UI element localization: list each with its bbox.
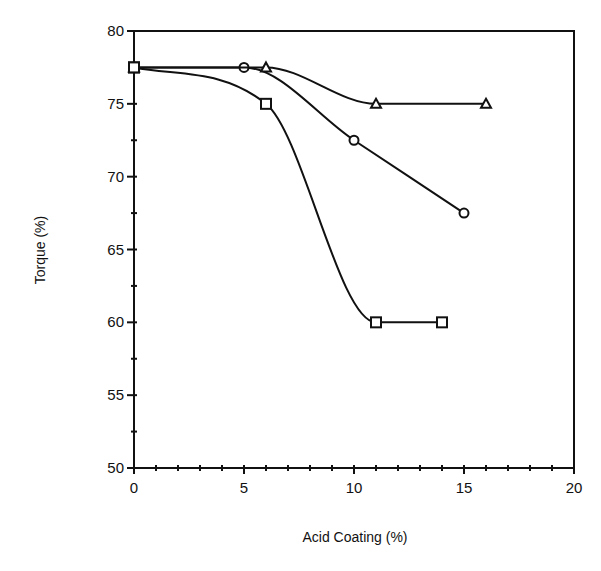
triangle-marker: [261, 62, 271, 71]
y-tick-label: 75: [107, 95, 124, 112]
plot-frame: [134, 31, 574, 468]
circle-marker: [460, 209, 469, 218]
series-line: [134, 67, 442, 322]
x-axis-ticks: 05101520: [130, 465, 583, 496]
y-axis-ticks: 50556065707580: [107, 22, 137, 476]
y-tick-label: 70: [107, 168, 124, 185]
y-tick-label: 55: [107, 386, 124, 403]
y-tick-label: 65: [107, 241, 124, 258]
y-tick-label: 50: [107, 459, 124, 476]
y-tick-label: 60: [107, 313, 124, 330]
square-marker: [437, 317, 447, 327]
square-marker: [261, 99, 271, 109]
x-axis-title: Acid Coating (%): [302, 529, 407, 545]
triangle-marker: [481, 99, 491, 108]
series-square: [129, 62, 447, 327]
x-tick-label: 5: [240, 479, 248, 496]
x-tick-label: 0: [130, 479, 138, 496]
series-triangle: [129, 62, 491, 107]
torque-vs-acid-coating-chart: 05101520 50556065707580 Acid Coating (%)…: [0, 0, 601, 571]
x-tick-label: 15: [456, 479, 473, 496]
circle-marker: [350, 136, 359, 145]
square-marker: [371, 317, 381, 327]
axes: 05101520 50556065707580: [107, 22, 582, 496]
series-line: [134, 67, 464, 213]
x-tick-label: 20: [566, 479, 583, 496]
y-axis-title: Torque (%): [32, 216, 48, 284]
triangle-marker: [371, 99, 381, 108]
data-series: [129, 62, 491, 327]
series-circle: [130, 63, 469, 218]
y-tick-label: 80: [107, 22, 124, 39]
origin-square-marker: [129, 62, 139, 72]
x-tick-label: 10: [346, 479, 363, 496]
